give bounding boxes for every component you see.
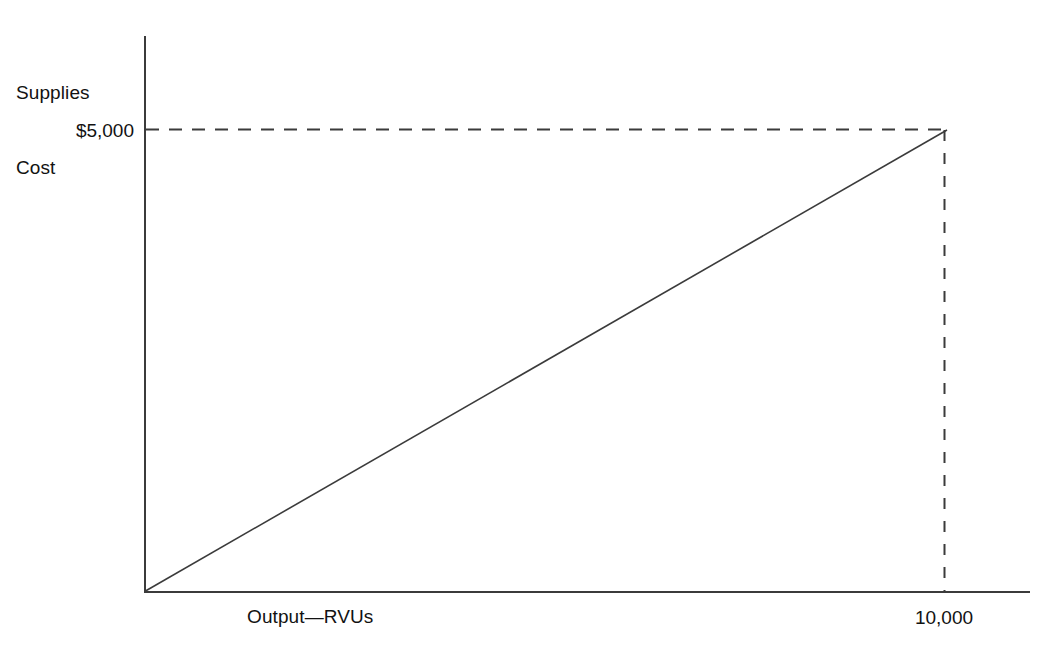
supplies-cost-chart: Supplies Cost Output—RVUs $5,000 10,000 [0, 0, 1053, 647]
plot-area [0, 0, 1053, 647]
variable-cost-line [146, 130, 948, 591]
